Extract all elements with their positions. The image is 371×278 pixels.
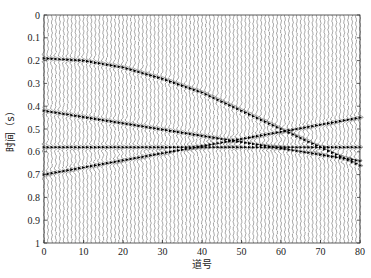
wiggle-trace <box>181 15 186 243</box>
wiggle-trace <box>117 15 123 243</box>
seismic-section-chart: 00.10.20.30.40.50.60.70.80.91 0102030405… <box>0 0 371 278</box>
wiggle-trace <box>81 15 87 243</box>
wiggle-trace <box>176 15 182 243</box>
wiggle-trace <box>229 15 240 243</box>
y-axis-title: 时间（s） <box>4 106 16 151</box>
wiggle-trace <box>137 15 143 243</box>
wiggle-trace <box>113 15 119 243</box>
wiggle-trace <box>226 15 235 243</box>
x-tick-label: 50 <box>237 246 247 257</box>
event-peak-marker <box>47 110 50 113</box>
wiggle-trace <box>333 15 340 243</box>
wiggle-trace <box>133 15 139 243</box>
wiggle-trace <box>85 15 90 243</box>
wiggle-trace <box>50 15 56 243</box>
y-tick-label: 0.4 <box>28 101 41 112</box>
wiggle-trace <box>93 15 98 243</box>
wiggle-trace <box>240 15 246 243</box>
wiggle-trace <box>341 15 351 243</box>
wiggle-trace <box>125 15 131 243</box>
wiggle-trace <box>250 15 257 243</box>
wiggle-trace <box>216 15 222 243</box>
wiggle-trace <box>109 15 114 243</box>
event-peak-marker <box>94 164 97 167</box>
wiggle-trace <box>164 15 170 243</box>
y-tick-label: 0.5 <box>28 124 41 135</box>
y-tick-label: 0.8 <box>28 192 41 203</box>
x-tick-label: 40 <box>197 246 207 257</box>
y-tick-label: 0.3 <box>28 78 41 89</box>
x-tick-label: 80 <box>355 246 365 257</box>
wiggle-trace <box>326 15 332 243</box>
event-peak-marker <box>307 125 310 128</box>
wiggle-trace <box>73 15 79 243</box>
wiggle-trace <box>330 15 336 243</box>
x-axis-title: 道号 <box>192 258 212 270</box>
wiggle-trace <box>244 15 249 243</box>
event-peak-marker <box>284 130 287 133</box>
wiggle-trace <box>223 15 229 243</box>
x-tick-label: 30 <box>158 246 168 257</box>
wiggle-trace <box>210 15 217 243</box>
y-tick-label: 0 <box>35 10 40 21</box>
y-tick-label: 0.1 <box>28 32 41 43</box>
wiggle-trace <box>168 15 174 243</box>
wiggle-trace <box>121 15 127 243</box>
y-tick-label: 0.2 <box>28 55 41 66</box>
wiggle-trace <box>298 15 304 243</box>
x-tick-label: 70 <box>316 246 326 257</box>
y-tick-label: 1 <box>35 238 40 249</box>
wiggle-trace <box>97 15 103 243</box>
wiggle-trace <box>314 15 321 243</box>
y-tick-label: 0.7 <box>28 169 41 180</box>
wiggle-trace <box>105 15 111 243</box>
y-tick-label: 0.9 <box>28 215 41 226</box>
wiggle-trace <box>62 15 68 243</box>
wiggle-trace <box>254 15 261 243</box>
event-peak-marker <box>118 146 121 149</box>
y-tick-label: 0.6 <box>28 146 41 157</box>
wiggle-trace <box>306 15 312 243</box>
wiggle-trace <box>141 15 147 243</box>
wiggle-trace <box>77 15 83 243</box>
wiggle-trace <box>191 15 201 243</box>
wiggle-trace <box>89 15 95 243</box>
x-axis: 01020304050607080 <box>42 240 366 257</box>
wiggle-traces <box>42 15 363 243</box>
wiggle-trace <box>207 15 214 243</box>
x-tick-label: 60 <box>276 246 286 257</box>
wiggle-trace <box>195 15 204 243</box>
event-peak-marker <box>54 57 57 60</box>
wiggle-trace <box>270 15 279 243</box>
x-tick-label: 20 <box>118 246 128 257</box>
x-tick-label: 10 <box>79 246 89 257</box>
wiggle-trace <box>184 15 191 243</box>
x-tick-label: 0 <box>42 246 47 257</box>
wiggle-trace <box>70 15 75 243</box>
wiggle-trace <box>66 15 72 243</box>
wiggle-trace <box>54 15 60 243</box>
wiggle-trace <box>247 15 252 243</box>
wiggle-trace <box>220 15 225 243</box>
